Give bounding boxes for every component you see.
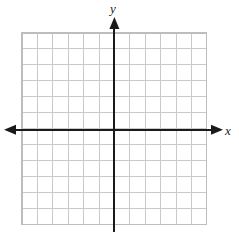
x-axis-label: x [224,123,231,138]
x-axis-arrow-right-icon [211,125,223,135]
y-axis-label: y [108,1,116,16]
x-axis-arrow-left-icon [4,125,16,135]
coordinate-plane-svg: x y [0,0,239,232]
coordinate-plane-figure: x y [0,0,239,232]
y-axis-arrow-up-icon [109,17,119,29]
